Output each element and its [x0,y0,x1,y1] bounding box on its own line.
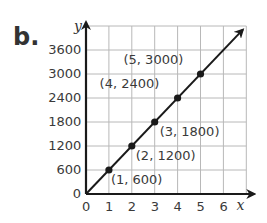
line-chart [0,0,267,223]
data-point [128,142,135,149]
point-label: (3, 1800) [160,125,220,138]
y-tick-label: 2400 [48,91,81,104]
x-tick-label: 0 [82,200,90,213]
x-tick-label: 4 [174,200,182,213]
x-tick-label: 1 [105,200,113,213]
data-point [197,70,204,77]
point-label: (4, 2400) [100,77,160,90]
x-axis-label: x [236,198,244,212]
y-tick-label: 1200 [48,139,81,152]
x-tick-label: 3 [151,200,159,213]
y-axis-label: y [74,19,82,33]
point-label: (5, 3000) [124,53,184,66]
y-tick-label: 1800 [48,115,81,128]
point-label: (2, 1200) [136,149,196,162]
y-tick-label: 600 [56,163,81,176]
point-label: (1, 600) [111,173,163,186]
data-point [174,94,181,101]
x-tick-label: 2 [128,200,136,213]
x-tick-label: 5 [197,200,205,213]
y-tick-label: 0 [73,187,81,200]
x-tick-label: 6 [219,200,227,213]
y-tick-label: 3600 [48,43,81,56]
y-tick-label: 3000 [48,67,81,80]
data-point [151,118,158,125]
